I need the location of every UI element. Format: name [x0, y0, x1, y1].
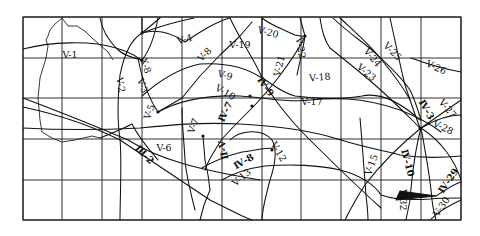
- fault-line: [200, 136, 210, 220]
- fault-label-v-9: V-9: [216, 67, 235, 82]
- fault-label-x-8: X-8: [138, 56, 154, 75]
- fault-label-v-22: V-22: [294, 35, 309, 59]
- fault-label-ii-v: Ⅱ-Ⅴ: [216, 139, 230, 161]
- intersection-node: [418, 126, 421, 129]
- fault-label-v-2: V-2: [114, 75, 128, 93]
- fault-line: [158, 96, 441, 132]
- intersection-node: [248, 94, 251, 97]
- fault-label-v-13: V-13: [229, 166, 253, 189]
- intersection-node: [140, 31, 143, 34]
- fault-line: [142, 18, 160, 33]
- fault-label-v-7: V-7: [185, 117, 201, 136]
- fault-label-v-28: V-28: [431, 117, 456, 136]
- fault-label-v-32: V-32: [398, 188, 409, 210]
- fault-line: [23, 107, 252, 220]
- fault-label-v-1: V-1: [61, 49, 77, 60]
- fault-label-v-8: V-8: [194, 45, 213, 64]
- map-canvas: V-1V-2V-3X-8V-5V-4V-8V-19V-20V-22V-21V-9…: [0, 0, 480, 236]
- fault-label-iv-9: Ⅳ-9: [255, 75, 276, 99]
- fault-label-v-19: V-19: [228, 39, 250, 50]
- fault-map: V-1V-2V-3X-8V-5V-4V-8V-19V-20V-22V-21V-9…: [0, 0, 480, 236]
- fault-label-v-4: V-4: [175, 32, 194, 47]
- fault-intersection-nodes: [140, 31, 421, 151]
- fault-label-v-18: V-18: [308, 71, 331, 84]
- fault-label-v-25: V-25: [381, 39, 405, 63]
- fault-line: [333, 18, 421, 120]
- fault-label-v-15: V-15: [362, 153, 380, 178]
- intersection-node: [201, 134, 204, 137]
- fault-label-v-10: V-10: [213, 82, 238, 103]
- fault-label-iv-7: Ⅳ-7: [216, 100, 235, 124]
- fault-label-v-17: V-17: [300, 96, 322, 107]
- fault-label-v-26: V-26: [424, 57, 449, 76]
- fault-label-v-3: V-3: [135, 76, 151, 95]
- fault-label-v-6: V-6: [155, 142, 171, 153]
- fault-label-v-27: V-27: [436, 96, 459, 120]
- fault-line: [142, 18, 194, 33]
- fault-label-iv-10: Ⅳ-10: [399, 148, 417, 178]
- fault-label-iv-3: Ⅳ-3: [417, 98, 437, 122]
- intersection-node: [250, 104, 253, 107]
- intersection-node: [156, 110, 159, 113]
